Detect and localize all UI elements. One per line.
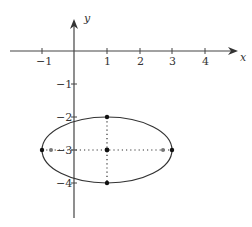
x-tick-labels: −1 1 2 3 4 (36, 55, 209, 68)
y-tick-label: −2 (56, 111, 72, 124)
y-axis: y (70, 12, 91, 218)
y-axis-label: y (83, 12, 91, 25)
x-tick-label: 1 (104, 55, 111, 68)
y-tick-label: −1 (56, 78, 72, 91)
y-tick-labels: −1 −2 −3 −4 (56, 78, 72, 190)
x-tick-label: −1 (36, 55, 52, 68)
focus-left (49, 148, 53, 152)
x-tick-label: 4 (202, 55, 209, 68)
co-vertex-top (105, 115, 109, 119)
focus-right (161, 148, 165, 152)
vertex-right (170, 148, 174, 152)
x-axis-label: x (240, 51, 247, 64)
vertex-left (40, 148, 44, 152)
co-vertex-bottom (105, 181, 109, 185)
x-tick-label: 3 (169, 55, 176, 68)
x-tick-label: 2 (137, 55, 144, 68)
y-tick-label: −4 (56, 177, 72, 190)
ellipse-diagram: x y −1 1 2 3 4 −1 −2 −3 −4 (0, 0, 252, 227)
center-point (105, 148, 110, 153)
